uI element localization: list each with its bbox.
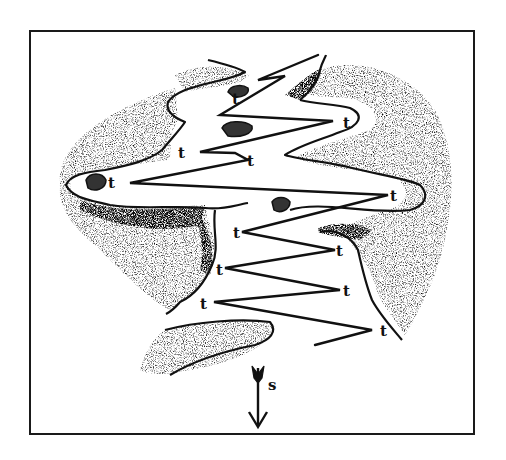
turn-label: t xyxy=(108,174,115,192)
shaded-region-right xyxy=(295,65,452,335)
turn-label: t xyxy=(232,90,239,108)
turn-label: t xyxy=(216,261,223,279)
turn-label: t xyxy=(233,224,240,242)
direction-arrow: s xyxy=(249,366,276,427)
figure: t t t t t t t t t t t t s xyxy=(0,0,506,460)
turn-label: t xyxy=(247,152,254,170)
turn-label: t xyxy=(178,144,185,162)
shaded-region-bottom-left xyxy=(140,321,275,374)
diagram-canvas: t t t t t t t t t t t t s xyxy=(0,0,506,460)
arrow-label: s xyxy=(268,376,276,394)
turn-label: t xyxy=(380,322,387,340)
turn-label: t xyxy=(343,114,350,132)
turn-label: t xyxy=(390,187,397,205)
turn-label: t xyxy=(336,242,343,260)
turn-label: t xyxy=(343,282,350,300)
turn-label: t xyxy=(200,295,207,313)
